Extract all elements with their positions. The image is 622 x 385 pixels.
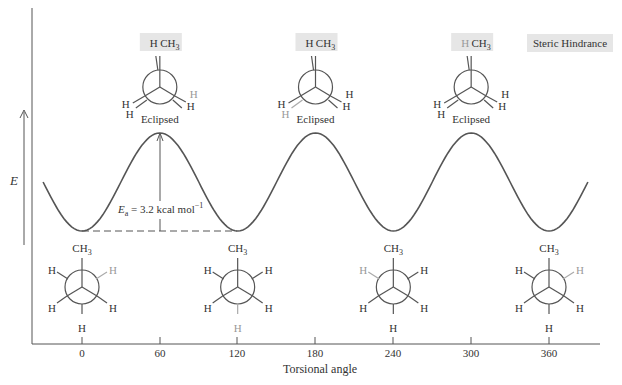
x-ticks xyxy=(82,337,549,344)
staggered-conformations: CH3HHHHHCH3HHHHHCH3HHHHHCH3HHHHH xyxy=(48,242,584,334)
svg-text:H: H xyxy=(78,322,86,334)
svg-text:H: H xyxy=(204,264,212,276)
svg-text:H: H xyxy=(190,88,198,100)
svg-text:H: H xyxy=(545,322,553,334)
x-axis-label: Torsional angle xyxy=(283,362,357,376)
svg-text:H: H xyxy=(346,88,354,100)
svg-text:180: 180 xyxy=(307,347,324,359)
svg-text:Eclipsed: Eclipsed xyxy=(297,113,335,125)
svg-text:H: H xyxy=(187,100,195,112)
svg-text:H: H xyxy=(515,264,523,276)
svg-text:H: H xyxy=(306,37,314,49)
svg-text:360: 360 xyxy=(541,347,558,359)
svg-text:H: H xyxy=(420,264,428,276)
svg-text:H: H xyxy=(282,108,290,120)
svg-text:H: H xyxy=(461,37,469,49)
newman-staggered: CH3HHHHH xyxy=(515,242,584,334)
svg-text:CH3: CH3 xyxy=(384,242,403,257)
svg-text:H: H xyxy=(265,302,273,314)
svg-text:120: 120 xyxy=(229,347,246,359)
newman-staggered: CH3HHHHH xyxy=(48,242,117,334)
y-axis-label: E xyxy=(9,173,18,188)
newman-eclipsed: HCH3HHHHEclipsed xyxy=(278,33,354,125)
svg-text:CH3: CH3 xyxy=(72,242,91,257)
svg-text:H: H xyxy=(576,302,584,314)
newman-staggered: CH3HHHHH xyxy=(359,242,428,334)
steric-hindrance-label: Steric Hindrance xyxy=(533,37,607,49)
svg-text:60: 60 xyxy=(155,347,167,359)
svg-text:H: H xyxy=(389,322,397,334)
svg-text:H: H xyxy=(420,302,428,314)
svg-text:H: H xyxy=(359,302,367,314)
svg-text:CH3: CH3 xyxy=(228,242,247,257)
svg-text:0: 0 xyxy=(79,347,85,359)
svg-text:Eclipsed: Eclipsed xyxy=(141,113,179,125)
svg-text:240: 240 xyxy=(385,347,402,359)
eclipsed-conformations: HCH3HHHHEclipsedHCH3HHHHEclipsedHCH3HHHH… xyxy=(122,33,509,125)
svg-text:H: H xyxy=(109,264,117,276)
svg-text:H: H xyxy=(48,264,56,276)
newman-eclipsed: HCH3HHHHEclipsed xyxy=(433,33,509,125)
svg-text:H: H xyxy=(109,302,117,314)
svg-text:300: 300 xyxy=(463,347,480,359)
newman-eclipsed: HCH3HHHHEclipsed xyxy=(122,33,198,125)
energy-diagram: E 0 60 120 180 240 300 360 Torsional ang… xyxy=(0,0,622,385)
svg-text:Eclipsed: Eclipsed xyxy=(452,113,490,125)
svg-text:H: H xyxy=(204,302,212,314)
svg-text:H: H xyxy=(359,264,367,276)
svg-text:H: H xyxy=(515,302,523,314)
svg-text:H: H xyxy=(501,88,509,100)
svg-text:H: H xyxy=(576,264,584,276)
svg-text:CH3: CH3 xyxy=(539,242,558,257)
svg-text:H: H xyxy=(343,100,351,112)
svg-text:H: H xyxy=(150,37,158,49)
svg-text:H: H xyxy=(48,302,56,314)
newman-staggered: CH3HHHHH xyxy=(204,242,273,334)
svg-text:H: H xyxy=(265,264,273,276)
x-tick-labels: 0 60 120 180 240 300 360 xyxy=(79,347,558,359)
svg-text:H: H xyxy=(437,108,445,120)
svg-text:H: H xyxy=(126,108,134,120)
svg-text:H: H xyxy=(234,322,242,334)
svg-text:H: H xyxy=(498,100,506,112)
